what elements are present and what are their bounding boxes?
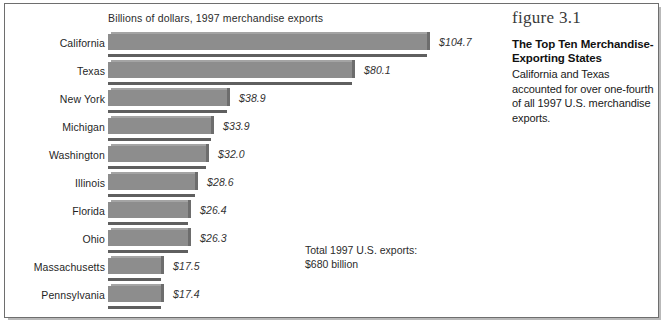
- bar-value-label: $26.4: [200, 204, 227, 216]
- bar: [108, 34, 427, 54]
- bar: [108, 90, 227, 110]
- bar-value-label: $28.6: [207, 176, 234, 188]
- bar-side-face: [195, 172, 198, 190]
- total-exports-line-1: Total 1997 U.S. exports:: [305, 243, 417, 257]
- bar-category-label: Texas: [0, 65, 105, 77]
- figure-number: figure 3.1: [512, 8, 654, 28]
- page-edge-shadow-bottom: [8, 318, 661, 320]
- bar-category-label: Washington: [0, 149, 105, 161]
- bar-bottom-face: [108, 54, 427, 57]
- bar-value-label: $26.3: [200, 232, 227, 244]
- bar: [108, 62, 352, 82]
- bar-bottom-face: [108, 306, 161, 309]
- bar-face: [108, 34, 427, 50]
- bar: [108, 230, 188, 250]
- bar-row: California$104.7: [0, 33, 470, 61]
- bar-row: Florida$26.4: [0, 201, 470, 229]
- bar-bottom-face: [108, 138, 211, 141]
- bar-side-face: [206, 144, 209, 162]
- figure-title: The Top Ten Merchandise-Exporting States: [512, 37, 654, 65]
- figure-caption-panel: figure 3.1 The Top Ten Merchandise-Expor…: [512, 8, 654, 125]
- bar-face: [108, 286, 161, 302]
- bar-category-label: Michigan: [0, 121, 105, 133]
- bar-face: [108, 90, 227, 106]
- bar-row: Michigan$33.9: [0, 117, 470, 145]
- bar-category-label: New York: [0, 93, 105, 105]
- bar-chart: Billions of dollars, 1997 merchandise ex…: [0, 0, 470, 313]
- bar-face: [108, 118, 211, 134]
- bar-bottom-face: [108, 222, 188, 225]
- bar-category-label: California: [0, 37, 105, 49]
- bar-side-face: [211, 116, 214, 134]
- bar-category-label: Florida: [0, 205, 105, 217]
- page-edge-shadow-right: [659, 7, 661, 320]
- bar-row: Washington$32.0: [0, 145, 470, 173]
- bar-side-face: [227, 88, 230, 106]
- bar: [108, 174, 195, 194]
- bar-side-face: [161, 284, 164, 302]
- bar-face: [108, 146, 206, 162]
- bar-side-face: [427, 32, 430, 50]
- bar: [108, 146, 206, 166]
- bar-bottom-face: [108, 110, 227, 113]
- bar-side-face: [188, 200, 191, 218]
- bar-value-label: $17.4: [173, 288, 200, 300]
- bar: [108, 258, 161, 278]
- total-exports-note: Total 1997 U.S. exports: $680 billion: [305, 243, 417, 271]
- bar-face: [108, 258, 161, 274]
- bar-side-face: [161, 256, 164, 274]
- bar-value-label: $104.7: [439, 36, 472, 48]
- bar-bottom-face: [108, 278, 161, 281]
- bar-row: Pennsylvania$17.4: [0, 285, 470, 313]
- total-exports-line-2: $680 billion: [305, 257, 417, 271]
- bar-value-label: $32.0: [218, 148, 245, 160]
- bar-face: [108, 174, 195, 190]
- bar-bottom-face: [108, 82, 352, 85]
- bar: [108, 118, 211, 138]
- bar-row: Texas$80.1: [0, 61, 470, 89]
- bar-bottom-face: [108, 194, 195, 197]
- bar-row: New York$38.9: [0, 89, 470, 117]
- bar: [108, 286, 161, 306]
- bar-face: [108, 202, 188, 218]
- bar-face: [108, 230, 188, 246]
- bar-category-label: Massachusetts: [0, 261, 105, 273]
- bar-row: Illinois$28.6: [0, 173, 470, 201]
- bar-face: [108, 62, 352, 78]
- bar-category-label: Pennsylvania: [0, 289, 105, 301]
- bar-side-face: [188, 228, 191, 246]
- bar-category-label: Illinois: [0, 177, 105, 189]
- bar-value-label: $80.1: [364, 64, 391, 76]
- bar-value-label: $38.9: [239, 92, 266, 104]
- bar-side-face: [352, 60, 355, 78]
- figure-description: California and Texas accounted for over …: [512, 67, 654, 125]
- bar-bottom-face: [108, 166, 206, 169]
- bar: [108, 202, 188, 222]
- bar-bottom-face: [108, 250, 188, 253]
- bar-value-label: $17.5: [173, 260, 200, 272]
- bar-category-label: Ohio: [0, 233, 105, 245]
- bar-value-label: $33.9: [223, 120, 250, 132]
- chart-axis-title: Billions of dollars, 1997 merchandise ex…: [108, 12, 323, 24]
- chart-plot-area: California$104.7Texas$80.1New York$38.9M…: [0, 33, 470, 313]
